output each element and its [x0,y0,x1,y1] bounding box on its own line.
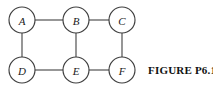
figure-caption: FIGURE P6.1 [148,64,213,76]
graph-node-a: A [9,7,35,33]
graph-node-label-e: E [72,65,80,77]
figure-screenshot: ABCDEF FIGURE P6.1 [0,0,213,90]
graph-node-c: C [109,7,135,33]
graph-node-label-d: D [17,65,26,77]
graph-node-e: E [63,57,89,83]
graph-node-label-b: B [73,15,80,27]
graph-nodes-layer: ABCDEF [9,7,135,83]
graph-node-label-f: F [118,65,126,77]
graph-node-f: F [109,57,135,83]
graph-node-b: B [63,7,89,33]
graph-node-d: D [9,57,35,83]
graph-node-label-c: C [118,15,126,27]
graph-diagram: ABCDEF [0,0,213,90]
graph-node-label-a: A [18,15,26,27]
